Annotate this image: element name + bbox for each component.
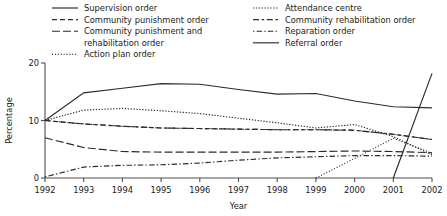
legend-label: Attendance centre: [285, 3, 362, 13]
x-tick-label: 1995: [151, 185, 172, 195]
legend-label: Reparation order: [285, 26, 356, 36]
series-line: [45, 84, 432, 121]
x-tick-label: 1997: [228, 185, 249, 195]
line-chart: Supervision orderCommunity punishment or…: [0, 0, 447, 216]
legend-label: Community punishment order: [84, 15, 209, 25]
series-line: [45, 156, 432, 177]
legend-label: Community punishment and: [84, 26, 202, 36]
legend-item: Community rehabilitation order: [253, 15, 416, 25]
legend-label: Referral order: [285, 38, 343, 48]
x-tick-label: 1993: [73, 185, 94, 195]
series-line: [45, 121, 432, 140]
y-tick-label: 10: [28, 116, 39, 126]
series-line: [393, 73, 432, 178]
y-tick-label: 20: [28, 58, 39, 68]
legend-item: Action plan order: [52, 49, 156, 59]
legend-label: Community rehabilitation order: [285, 15, 416, 25]
x-tick-label: 1992: [34, 185, 55, 195]
chart-series-group: [45, 73, 432, 178]
legend-item: Reparation order: [253, 26, 356, 36]
legend-item: Community punishment order: [52, 15, 209, 25]
x-tick-label: 2001: [383, 185, 404, 195]
x-tick-label: 1998: [267, 185, 288, 195]
x-tick-label: 1996: [189, 185, 210, 195]
legend-item: rehabilitation order: [84, 38, 164, 48]
legend-label: rehabilitation order: [84, 38, 164, 48]
series-line: [45, 138, 432, 153]
chart-legend: Supervision orderCommunity punishment or…: [52, 3, 416, 59]
x-axis-title: Year: [229, 201, 248, 211]
chart-axes: 0102019921993199419951996199719981999200…: [4, 58, 443, 211]
legend-label: Action plan order: [84, 49, 156, 59]
x-tick-label: 1994: [112, 185, 133, 195]
series-line: [45, 121, 432, 140]
chart-canvas: Supervision orderCommunity punishment or…: [0, 0, 447, 216]
legend-item: Attendance centre: [253, 3, 362, 13]
legend-item: Community punishment and: [52, 26, 202, 36]
x-tick-label: 1999: [305, 185, 326, 195]
legend-label: Supervision order: [84, 3, 158, 13]
series-line: [316, 138, 432, 178]
y-axis-title: Percentage: [4, 97, 14, 144]
series-line: [45, 108, 432, 155]
legend-item: Supervision order: [52, 3, 158, 13]
x-tick-label: 2000: [344, 185, 365, 195]
y-tick-label: 0: [34, 173, 39, 183]
x-tick-label: 2002: [421, 185, 442, 195]
legend-item: Referral order: [253, 38, 343, 48]
